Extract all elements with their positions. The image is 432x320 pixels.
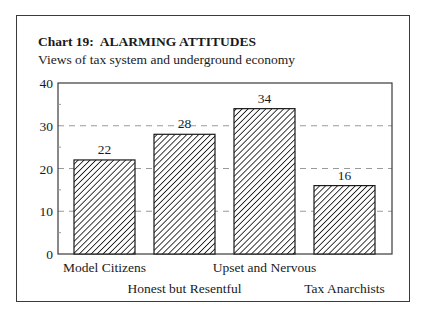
value-label: 22: [98, 142, 112, 157]
x-category-label: Honest but Resentful: [128, 281, 242, 296]
bar-upset-and-nervous: [234, 109, 295, 254]
bar-model-citizens: [74, 160, 135, 254]
y-tick-label: 20: [40, 162, 54, 177]
x-category-label: Upset and Nervous: [213, 260, 316, 275]
value-label: 28: [178, 116, 192, 131]
y-tick-label: 30: [40, 119, 54, 134]
x-category-label: Tax Anarchists: [304, 281, 384, 296]
x-category-label: Model Citizens: [63, 260, 146, 275]
y-tick-label: 40: [40, 76, 54, 91]
bars: [74, 109, 375, 254]
bar-tax-anarchists: [314, 186, 375, 254]
y-tick-label: 0: [46, 247, 53, 262]
bar-chart: 01020304022Model Citizens28Honest but Re…: [0, 0, 432, 320]
value-label: 16: [338, 168, 352, 183]
y-tick-label: 10: [40, 204, 54, 219]
value-label: 34: [258, 91, 272, 106]
bar-honest-but-resentful: [154, 134, 215, 254]
